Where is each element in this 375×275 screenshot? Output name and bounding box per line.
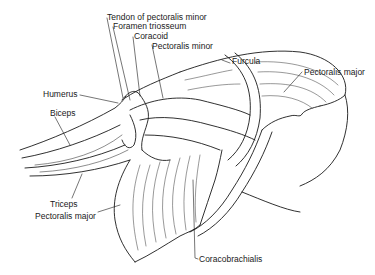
label-biceps: Biceps bbox=[50, 109, 76, 118]
label-foramen-triosseum: Foramen triosseum bbox=[113, 22, 186, 31]
label-coracobrachialis: Coracobrachialis bbox=[199, 255, 262, 264]
label-humerus: Humerus bbox=[43, 90, 77, 99]
label-pectoralis-minor: Pectoralis minor bbox=[152, 42, 213, 51]
label-pectoralis-major-right: Pectoralis major bbox=[304, 68, 365, 77]
anatomy-diagram: Tendon of pectoralis minor Foramen trios… bbox=[0, 0, 375, 275]
label-coracoid: Coracoid bbox=[134, 32, 168, 41]
label-pectoralis-major-left: Pectoralis major bbox=[35, 212, 96, 221]
label-triceps: Triceps bbox=[50, 200, 78, 209]
label-furcula: Furcula bbox=[232, 57, 260, 66]
